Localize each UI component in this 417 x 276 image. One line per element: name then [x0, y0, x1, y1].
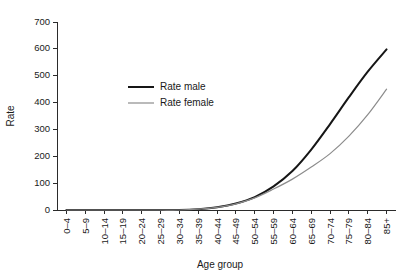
y-axis-tick-label: 300: [34, 123, 50, 134]
x-axis-title: Age group: [197, 259, 244, 270]
x-axis-tick-label: 25–29: [155, 218, 166, 244]
x-axis-tick-label: 35–39: [193, 218, 204, 244]
x-axis-tick-label: 80–84: [362, 218, 373, 244]
x-axis: 0–45–910–1415–1920–2425–2930–3435–3940–4…: [57, 210, 396, 244]
y-axis-tick-label: 500: [34, 69, 50, 80]
y-axis-title: Rate: [5, 105, 16, 127]
y-axis: 0100200300400500600700: [34, 16, 57, 215]
y-axis-tick-label: 600: [34, 42, 50, 53]
x-axis-tick-label: 75–79: [343, 218, 354, 244]
y-axis-tick-label: 0: [45, 204, 50, 215]
x-axis-tick-label: 55–59: [268, 218, 279, 244]
x-axis-tick-label: 45–49: [230, 218, 241, 244]
chart-figure: 0100200300400500600700 0–45–910–1415–192…: [0, 0, 417, 276]
x-axis-tick-label: 65–69: [306, 218, 317, 244]
y-axis-tick-label: 400: [34, 96, 50, 107]
chart-legend: Rate maleRate female: [128, 81, 214, 108]
series-layer: [66, 49, 386, 210]
y-axis-tick-label: 100: [34, 177, 50, 188]
x-axis-tick-label: 85+: [381, 218, 392, 235]
x-axis-tick-label: 30–34: [174, 218, 185, 244]
legend-label-0: Rate male: [160, 81, 206, 92]
series-line-rate-male: [66, 49, 386, 210]
x-axis-tick-label: 20–24: [136, 218, 147, 244]
x-axis-tick-label: 15–19: [117, 218, 128, 244]
y-axis-tick-label: 700: [34, 16, 50, 27]
legend-label-1: Rate female: [160, 97, 214, 108]
x-axis-tick-label: 40–44: [212, 218, 223, 244]
x-axis-tick-label: 10–14: [99, 218, 110, 244]
x-axis-tick-label: 0–4: [61, 218, 72, 234]
x-axis-tick-label: 60–64: [287, 218, 298, 244]
x-axis-tick-label: 5–9: [80, 218, 91, 234]
y-axis-tick-label: 200: [34, 150, 50, 161]
series-line-rate-female: [66, 89, 386, 210]
x-axis-tick-label: 50–54: [249, 218, 260, 244]
x-axis-tick-label: 70–74: [325, 218, 336, 244]
line-chart: 0100200300400500600700 0–45–910–1415–192…: [0, 0, 417, 276]
